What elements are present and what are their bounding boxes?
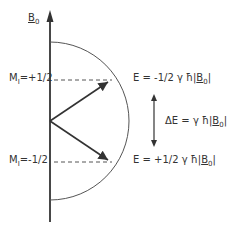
spin-vector-down (50, 121, 108, 160)
precession-circle (50, 42, 129, 200)
delta-e-arrowhead-up-icon (151, 94, 157, 101)
delta-e-label: ΔE = γ ħ|B0| (165, 116, 227, 129)
energy-upper-label: E = -1/2 γ ħ|B0| (133, 73, 211, 86)
m-plus-label: MI=+1/2 (9, 73, 53, 86)
spin-vector-up (50, 82, 108, 121)
zeeman-splitting-diagram: B0 MI=+1/2 MI=-1/2 E = -1/2 γ ħ|B0| E = … (0, 0, 235, 234)
b0-arrowhead-icon (47, 10, 54, 22)
m-minus-label: MI=-1/2 (9, 155, 48, 168)
energy-lower-label: E = +1/2 γ ħ|B0| (133, 155, 216, 168)
delta-e-arrowhead-down-icon (151, 140, 157, 147)
b0-label: B0 (28, 13, 39, 26)
